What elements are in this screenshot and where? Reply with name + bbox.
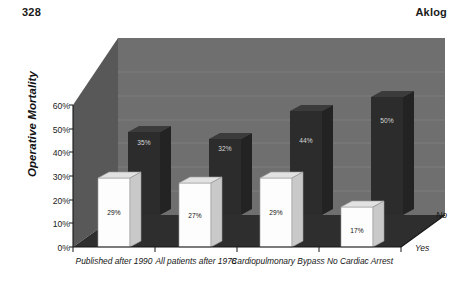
y-tick-label: 60% — [34, 101, 70, 111]
value-label-back-3: 44% — [289, 137, 323, 144]
y-tick-label: 50% — [34, 125, 70, 135]
value-label-front-3: 29% — [259, 209, 293, 216]
x-axis-category-labels: Published after 1990 All patients after … — [0, 252, 465, 292]
value-label-front-2: 27% — [178, 212, 212, 219]
bar-front-no-cardiac-arrest[interactable] — [341, 201, 384, 247]
value-label-front-4: 17% — [340, 227, 374, 234]
series-label-yes: Yes — [415, 243, 429, 253]
value-label-back-4: 50% — [370, 117, 404, 124]
y-tick-label: 10% — [34, 219, 70, 229]
value-label-back-1: 35% — [127, 139, 161, 146]
figure-3d-bar-chart: Operative Mortality 60% 50% 40% 30% 20% … — [0, 0, 465, 299]
value-label-front-1: 29% — [97, 209, 131, 216]
value-label-back-2: 32% — [208, 145, 242, 152]
bar-back-no-cardiac-arrest[interactable] — [371, 91, 414, 215]
series-label-no: No — [436, 210, 447, 220]
page-canvas: 328 Aklog — [0, 0, 465, 299]
y-tick-label: 20% — [34, 196, 70, 206]
x-category-label-4: No Cardiac Arrest — [310, 256, 410, 267]
y-tick-label: 30% — [34, 172, 70, 182]
y-tick-label: 40% — [34, 148, 70, 158]
